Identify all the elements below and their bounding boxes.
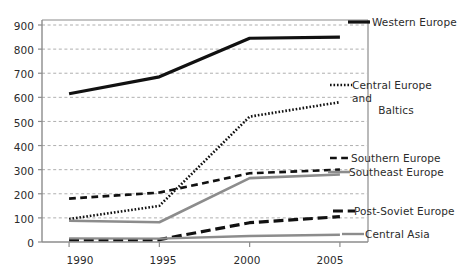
y-tick-label-500: 500 [0, 117, 34, 129]
legend-label-line-2: Baltics [352, 104, 440, 117]
x-tick-label-2005: 2005 [307, 254, 353, 266]
legend-label-central-europe-and-baltics: Central Europe and Baltics [352, 79, 444, 117]
legend-label-line-1: Central Europe and [352, 79, 432, 104]
y-tick-label-0: 0 [0, 237, 34, 249]
legend-label-southern-europe: Southern Europe [351, 152, 441, 165]
legend-label-western-europe: Western Europe [372, 16, 457, 29]
x-tick-label-2000: 2000 [224, 254, 270, 266]
legend-label-post-soviet-europe: Post-Soviet Europe [354, 205, 455, 218]
y-tick-label-700: 700 [0, 68, 34, 80]
y-tick-label-800: 800 [0, 44, 34, 56]
y-tick-label-900: 900 [0, 20, 34, 32]
legend-label-central-asia: Central Asia [365, 228, 430, 241]
legend-swatches [328, 22, 370, 234]
series-lines [69, 37, 340, 240]
series-line-western-europe [69, 37, 340, 94]
y-tick-label-600: 600 [0, 92, 34, 104]
gridlines [42, 25, 367, 218]
series-line-southern-europe [69, 170, 340, 199]
y-tick-label-100: 100 [0, 213, 34, 225]
legend-label-southeast-europe: Southeast Europe [349, 166, 444, 179]
axes [38, 20, 368, 242]
x-tick-label-1990: 1990 [57, 254, 103, 266]
series-line-central-asia [69, 235, 340, 239]
x-tick-marks [69, 242, 340, 247]
y-tick-label-400: 400 [0, 141, 34, 153]
y-tick-label-200: 200 [0, 189, 34, 201]
y-tick-label-300: 300 [0, 165, 34, 177]
x-tick-label-1995: 1995 [140, 254, 186, 266]
